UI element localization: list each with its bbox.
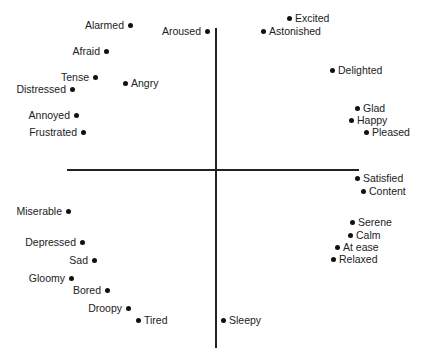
emotion-label: Serene [358,216,392,228]
emotion-label: Distressed [16,83,66,95]
emotion-label: Calm [356,229,381,241]
point-marker-icon [69,276,74,281]
point-marker-icon [331,257,336,262]
point-marker-icon [350,220,355,225]
point-marker-icon [80,240,85,245]
point-marker-icon [126,306,131,311]
emotion-label: Satisfied [363,172,403,184]
point-marker-icon [93,75,98,80]
vertical-axis [215,28,217,348]
point-marker-icon [104,49,109,54]
emotion-label: Bored [73,284,101,296]
point-marker-icon [136,318,141,323]
horizontal-axis [67,169,359,171]
emotion-label: Tense [61,71,89,83]
point-marker-icon [335,245,340,250]
point-marker-icon [355,106,360,111]
point-marker-icon [81,130,86,135]
emotion-label: Aroused [162,25,201,37]
emotion-label: Sad [69,254,88,266]
emotion-label: Excited [295,12,329,24]
emotion-label: Relaxed [339,253,378,265]
point-marker-icon [221,318,226,323]
emotion-label: Tired [144,314,168,326]
point-marker-icon [128,23,133,28]
emotion-label: Miserable [16,205,62,217]
point-marker-icon [349,118,354,123]
emotion-label: Delighted [338,64,382,76]
point-marker-icon [66,209,71,214]
point-marker-icon [287,16,292,21]
point-marker-icon [364,130,369,135]
point-marker-icon [92,258,97,263]
emotion-label: Afraid [73,45,100,57]
point-marker-icon [123,81,128,86]
emotion-label: Depressed [25,236,76,248]
point-marker-icon [348,233,353,238]
emotion-label: Frustrated [29,126,77,138]
emotion-label: Annoyed [29,109,70,121]
emotion-label: Angry [131,77,158,89]
emotion-label: Glad [363,102,385,114]
emotion-label: Astonished [269,25,321,37]
emotion-label: Alarmed [85,19,124,31]
point-marker-icon [105,288,110,293]
point-marker-icon [361,189,366,194]
emotion-label: Pleased [372,126,410,138]
point-marker-icon [330,68,335,73]
emotion-label: At ease [343,241,379,253]
emotion-label: Happy [357,114,387,126]
point-marker-icon [74,113,79,118]
emotion-label: Sleepy [229,314,261,326]
emotion-label: Droopy [88,302,122,314]
circumplex-diagram: AlarmedArousedExcitedAstonishedAfraidDel… [0,0,426,363]
point-marker-icon [70,87,75,92]
point-marker-icon [355,176,360,181]
emotion-label: Gloomy [29,272,65,284]
point-marker-icon [205,29,210,34]
emotion-label: Content [369,185,406,197]
point-marker-icon [261,29,266,34]
